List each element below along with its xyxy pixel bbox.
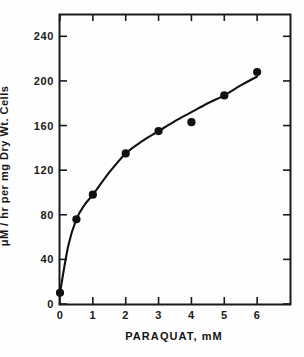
chart-figure: 04080120160200240 0123456 PARAQUAT, mM μ… xyxy=(0,0,304,357)
data-point xyxy=(220,91,228,99)
data-point xyxy=(154,127,162,135)
y-tick-label: 40 xyxy=(24,253,54,265)
x-axis-title: PARAQUAT, mM xyxy=(125,330,223,342)
y-tick-label: 240 xyxy=(24,30,54,42)
data-point xyxy=(253,68,261,76)
x-tick-label: 5 xyxy=(221,309,228,321)
y-tick-label: 200 xyxy=(24,75,54,87)
y-tick-label: 120 xyxy=(24,164,54,176)
y-tick-label: 0 xyxy=(24,298,54,310)
y-tick-label: 160 xyxy=(24,120,54,132)
x-tick-label: 2 xyxy=(122,309,129,321)
x-tick-label: 4 xyxy=(188,309,195,321)
x-tick-label: 0 xyxy=(57,309,64,321)
data-point xyxy=(122,149,130,157)
plot-frame xyxy=(60,15,291,305)
x-tick-label: 3 xyxy=(155,309,162,321)
x-tick-label: 1 xyxy=(89,309,96,321)
fit-curve xyxy=(60,76,257,292)
data-point xyxy=(56,289,64,297)
y-tick-label: 80 xyxy=(24,209,54,221)
x-tick-label: 6 xyxy=(254,309,261,321)
data-point xyxy=(89,191,97,199)
x-axis-ticks xyxy=(60,14,257,304)
data-point xyxy=(187,118,195,126)
y-axis-title: μM / hr per mg Dry Wt. Cells xyxy=(0,86,10,247)
data-point xyxy=(72,215,80,223)
data-point-markers xyxy=(56,68,261,297)
